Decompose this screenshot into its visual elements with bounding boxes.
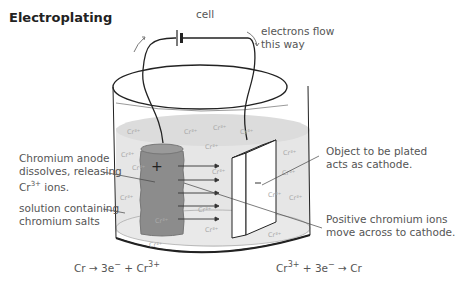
svg-text:Cr³⁺: Cr³⁺ <box>268 191 281 199</box>
svg-text:Cr³⁺: Cr³⁺ <box>121 151 134 159</box>
svg-text:Cr³⁺: Cr³⁺ <box>149 241 162 249</box>
svg-text:Cr³⁺: Cr³⁺ <box>155 217 168 225</box>
cathode-line1: Object to be plated <box>326 145 427 158</box>
anode-line3: Cr3+ ions. <box>19 178 122 194</box>
cathode-line2: acts as cathode. <box>326 158 427 171</box>
cathode-label: Object to be plated acts as cathode. <box>326 145 427 171</box>
svg-text:Cr³⁺: Cr³⁺ <box>240 128 253 136</box>
ions-line1: Positive chromium ions <box>326 213 455 226</box>
solution-label: solution containing chromium salts <box>19 202 119 228</box>
cathode-equation: Cr3+ + 3e− → Cr <box>276 260 362 274</box>
svg-text:Cr³⁺: Cr³⁺ <box>120 194 133 202</box>
electron-flow-line2: this way <box>261 38 334 51</box>
svg-text:Cr³⁺: Cr³⁺ <box>283 149 296 157</box>
anode-line1: Chromium anode <box>19 152 122 165</box>
svg-text:Cr³⁺: Cr³⁺ <box>282 169 295 177</box>
cell-icon <box>177 30 183 46</box>
svg-text:Cr³⁺: Cr³⁺ <box>213 124 226 132</box>
anode-equation: Cr → 3e− + Cr3+ <box>74 260 160 274</box>
ions-line2: move across to cathode. <box>326 226 455 239</box>
anode-plus-sign: + <box>151 158 163 174</box>
svg-text:Cr³⁺: Cr³⁺ <box>198 206 211 214</box>
svg-text:Cr³⁺: Cr³⁺ <box>184 128 197 136</box>
electron-flow-line1: electrons flow <box>261 25 334 38</box>
svg-text:Cr³⁺: Cr³⁺ <box>212 168 225 176</box>
anode-label: Chromium anode dissolves, releasing Cr3+… <box>19 152 122 194</box>
svg-text:Cr³⁺: Cr³⁺ <box>205 143 218 151</box>
cathode-object <box>232 140 276 238</box>
solution-line1: solution containing <box>19 202 119 215</box>
solution-line2: chromium salts <box>19 215 119 228</box>
svg-text:Cr³⁺: Cr³⁺ <box>205 226 218 234</box>
electron-flow-label: electrons flow this way <box>261 25 334 51</box>
svg-text:Cr³⁺: Cr³⁺ <box>132 164 145 172</box>
svg-text:Cr³⁺: Cr³⁺ <box>289 194 302 202</box>
anode-line2: dissolves, releasing <box>19 165 122 178</box>
ion-movement-label: Positive chromium ions move across to ca… <box>326 213 455 239</box>
cell-label: cell <box>196 8 214 21</box>
svg-text:Cr³⁺: Cr³⁺ <box>268 231 281 239</box>
svg-text:Cr³⁺: Cr³⁺ <box>127 128 140 136</box>
